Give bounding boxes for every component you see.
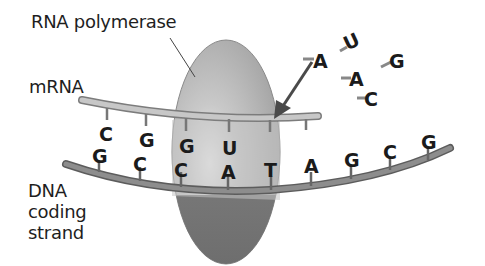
dna-base: C	[174, 159, 188, 181]
rna-polymerase-label: RNA polymerase	[31, 11, 176, 32]
mrna-base: G	[139, 129, 155, 151]
free-nucleotides: A U G A C	[303, 28, 405, 110]
mrna-base: U	[222, 137, 237, 159]
dna-base: G	[92, 145, 108, 167]
dna-base: T	[264, 159, 277, 181]
incorporation-arrow	[274, 62, 312, 119]
free-nucleotide: C	[364, 88, 378, 110]
free-nucleotide: G	[389, 50, 405, 72]
dna-label-line2: coding	[28, 201, 86, 222]
free-nucleotide: A	[349, 68, 364, 90]
dna-base: G	[421, 131, 437, 153]
mrna-base: G	[179, 135, 195, 157]
dna-base: A	[304, 155, 319, 177]
dna-label-line1: DNA	[28, 180, 67, 201]
mrna-base: C	[99, 123, 113, 145]
free-nucleotide: A	[313, 50, 328, 72]
dna-base: C	[383, 141, 397, 163]
mrna-label: mRNA	[29, 76, 84, 97]
dna-label-line3: strand	[28, 222, 84, 243]
dna-base: G	[344, 149, 360, 171]
polymerase-leader-line	[170, 38, 195, 77]
dna-base: C	[133, 153, 147, 175]
dna-base: A	[221, 161, 236, 183]
